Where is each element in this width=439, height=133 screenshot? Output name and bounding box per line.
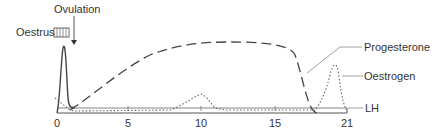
progesterone-label: Progesterone [364, 42, 430, 53]
oestrus-box [54, 28, 69, 37]
ovulation-label: Ovulation [54, 4, 100, 15]
x-tick-label: 5 [125, 118, 131, 129]
x-tick-label: 0 [54, 118, 60, 129]
oestrogen-label: Oestrogen [364, 71, 415, 82]
lh-curve [57, 46, 75, 113]
progesterone-leader [307, 47, 340, 73]
oestrogen-curve [55, 65, 346, 111]
x-tick-label: 15 [269, 118, 281, 129]
x-tick-label: 21 [341, 118, 353, 129]
lh-label: LH [365, 103, 379, 114]
oestrus-label: Oestrus [16, 27, 55, 38]
x-tick-label: 10 [195, 118, 207, 129]
progesterone-curve [70, 42, 317, 113]
